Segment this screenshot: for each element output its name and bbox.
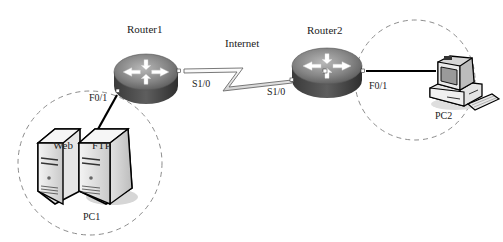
ftp-server-label: FTP xyxy=(92,139,111,151)
router1-label: Router1 xyxy=(127,23,162,35)
router1-icon xyxy=(114,54,181,104)
pc2-label: PC2 xyxy=(435,110,452,122)
pc2-computer-icon xyxy=(430,56,499,110)
router2-f0-1-label: F0/1 xyxy=(369,80,387,92)
router2-label: Router2 xyxy=(307,24,342,36)
web-server-label: Web xyxy=(53,139,73,151)
internet-label: Internet xyxy=(225,37,259,49)
router2-icon xyxy=(290,48,365,98)
router2-s1-0-label: S1/0 xyxy=(267,86,285,98)
pc1-label: PC1 xyxy=(83,211,100,223)
router1-s1-0-label: S1/0 xyxy=(192,78,210,90)
network-diagram: Router1 Router2 Internet S1/0 S1/0 F0/1 … xyxy=(0,0,503,242)
router1-f0-1-label: F0/1 xyxy=(89,92,107,104)
